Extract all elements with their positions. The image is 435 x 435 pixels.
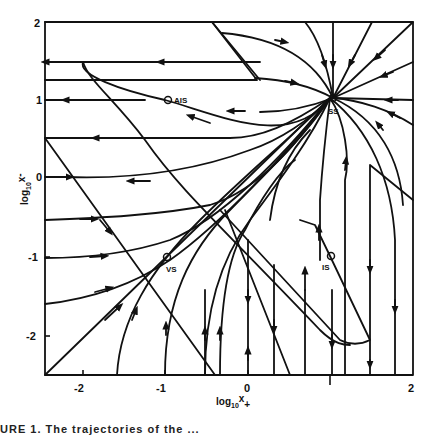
svg-text:log10x-: log10x- <box>14 173 32 205</box>
trajectory <box>305 22 333 98</box>
trajectory <box>320 98 330 260</box>
y-tick-label: 0 <box>36 171 42 183</box>
point-is-label: IS <box>322 263 330 272</box>
y-tick-label: 2 <box>34 17 40 29</box>
trajectory <box>255 78 333 98</box>
x-axis-label: log10x+ <box>216 393 250 410</box>
trajectory <box>333 62 413 98</box>
x-tick-label: 2 <box>408 382 414 394</box>
point-ss-label: SS <box>328 107 339 116</box>
y-tick-label: -2 <box>26 330 36 342</box>
trajectory <box>275 40 285 42</box>
point-vs-label: VS <box>166 265 177 274</box>
trajectory <box>212 22 260 80</box>
trajectory <box>83 62 330 125</box>
trajectory <box>225 210 290 375</box>
trajectory <box>333 22 413 98</box>
trajectory <box>378 124 383 130</box>
trajectory <box>345 160 346 170</box>
x-tick-label: -2 <box>74 382 84 394</box>
x-tick-label: -1 <box>156 382 166 394</box>
trajectory <box>330 98 395 375</box>
trajectory <box>105 306 120 320</box>
trajectory <box>222 33 333 98</box>
point-ais-label: AIS <box>174 96 188 105</box>
trajectory <box>376 50 385 58</box>
trajectory <box>370 165 413 375</box>
trajectory <box>190 116 210 123</box>
trajectory <box>390 113 400 118</box>
svg-text:log10x+: log10x+ <box>216 393 250 410</box>
y-tick-label: 1 <box>36 94 42 106</box>
x-tick-label: 0 <box>244 382 250 394</box>
trajectory <box>45 22 257 80</box>
trajectory <box>45 98 330 220</box>
y-tick-label: -1 <box>28 251 38 263</box>
trajectory <box>45 98 330 304</box>
trajectory <box>205 98 330 375</box>
trajectory <box>350 55 355 64</box>
figure-caption: URE 1. The trajectories of the ... <box>0 423 200 435</box>
trajectory <box>90 256 105 257</box>
y-axis-label: log10x- <box>14 173 32 205</box>
trajectory <box>220 160 295 375</box>
